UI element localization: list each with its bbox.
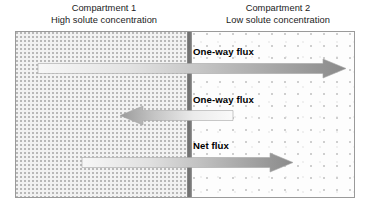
compartment-2-name: Compartment 2 bbox=[193, 3, 363, 15]
net-flux-label: Net flux bbox=[193, 140, 229, 151]
compartment-1-heading: Compartment 1 High solute concentration bbox=[18, 3, 190, 26]
compartment-2-heading: Compartment 2 Low solute concentration bbox=[193, 3, 363, 26]
one-way-flux-left-label: One-way flux bbox=[193, 94, 254, 105]
compartment-1-concentration: High solute concentration bbox=[18, 15, 190, 27]
diagram-canvas: Compartment 1 High solute concentration … bbox=[0, 0, 367, 209]
one-way-flux-right-label: One-way flux bbox=[193, 46, 254, 57]
net-flux-arrow bbox=[82, 153, 293, 172]
compartment-1-name: Compartment 1 bbox=[18, 3, 190, 15]
one-way-flux-left-arrow bbox=[120, 106, 233, 125]
one-way-flux-right-arrow bbox=[38, 59, 346, 78]
compartment-2-concentration: Low solute concentration bbox=[193, 15, 363, 27]
